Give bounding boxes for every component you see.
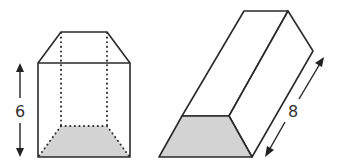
height-label: 6 — [15, 102, 25, 121]
arrow-down-left-icon — [265, 146, 274, 157]
length-label: 8 — [288, 102, 298, 121]
right-prism — [159, 11, 313, 157]
left-prism-top-face — [38, 32, 130, 63]
arrow-up-right-icon — [315, 57, 324, 67]
diagram-canvas: 6 8 — [0, 0, 339, 166]
height-dimension: 6 — [15, 63, 25, 157]
left-prism-base — [38, 126, 130, 157]
arrow-up-icon — [16, 63, 24, 72]
arrow-down-icon — [16, 148, 24, 157]
length-arrow-lower-line — [268, 122, 285, 152]
left-prism — [38, 32, 130, 157]
